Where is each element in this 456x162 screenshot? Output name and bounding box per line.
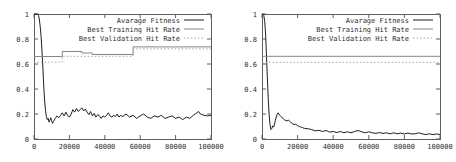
chart2-x-tick-label: 100000 [427,143,452,151]
chart1-x-tick-label: 100000 [198,143,223,151]
chart2-x-tick-label: 80000 [394,143,415,151]
chart1-x-tick-label: 40000 [94,143,115,151]
chart1-y-tick-label: 0 [25,136,29,144]
chart1-legend-label: Best Validation Hit Rate [79,35,180,43]
chart2-x-tick-label: 40000 [323,143,344,151]
chart2-y-tick-label: 0.4 [244,86,257,94]
chart1-x-tick-label: 0 [32,143,36,151]
chart2-legend-label: Avarage Fitness [346,17,409,25]
chart1-x-tick-label: 20000 [59,143,80,151]
chart2-legend-label: Best Training Hit Rate [316,26,409,34]
chart2-y-tick-label: 0.2 [244,111,257,119]
chart1-legend-label: Avarage Fitness [117,17,180,25]
chart2-y-tick-label: 0.8 [244,36,257,44]
chart2-legend-label: Best Validation Hit Rate [308,35,409,43]
chart1-y-tick-label: 0.8 [16,36,29,44]
chart2-x-tick-label: 60000 [358,143,379,151]
chart2-x-tick-label: 20000 [287,143,308,151]
chart2-x-tick-label: 0 [260,143,264,151]
chart1-y-tick-label: 0.4 [16,86,29,94]
chart1-y-tick-label: 0.2 [16,111,29,119]
chart1-legend-label: Best Training Hit Rate [87,26,180,34]
chart1-x-tick-label: 60000 [130,143,151,151]
chart2-y-tick-label: 0 [253,136,257,144]
chart1-series-line-3 [34,49,211,62]
figure-fitness-charts: 02000040000600008000010000000.20.40.60.8… [0,0,456,162]
chart2-y-tick-label: 0.6 [244,61,257,69]
chart1-x-tick-label: 80000 [165,143,186,151]
chart2-y-tick-label: 1 [253,11,257,19]
charts-canvas: 02000040000600008000010000000.20.40.60.8… [0,0,456,162]
chart1-y-tick-label: 1 [25,11,29,19]
chart1-y-tick-label: 0.6 [16,61,29,69]
chart1-series-line-2 [34,47,211,57]
